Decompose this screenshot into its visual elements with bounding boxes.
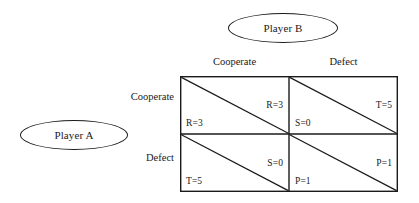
row-header-defect: Defect (54, 153, 174, 164)
column-header-defect: Defect (289, 57, 398, 68)
cell-dd-row-payoff: P=1 (295, 177, 311, 187)
payoff-matrix-figure: Player B Player A Cooperate Defect Coope… (0, 0, 419, 203)
player-b-label: Player B (264, 23, 303, 34)
cell-dc-column-payoff: S=0 (267, 159, 283, 169)
player-a-node: Player A (20, 120, 128, 150)
cell-cd-column-payoff: T=5 (376, 101, 392, 111)
payoff-matrix-grid: R=3 R=3 T=5 S=0 S=0 T=5 P=1 P=1 (180, 76, 398, 192)
cell-cooperate-defect: T=5 S=0 (289, 76, 398, 134)
cell-defect-cooperate: S=0 T=5 (180, 134, 289, 192)
column-header-cooperate: Cooperate (180, 57, 289, 68)
cell-cc-column-payoff: R=3 (266, 101, 283, 111)
row-header-cooperate: Cooperate (54, 92, 174, 103)
player-a-label: Player A (55, 130, 94, 141)
cell-dc-row-payoff: T=5 (186, 177, 202, 187)
cell-cd-row-payoff: S=0 (295, 119, 311, 129)
cell-cc-row-payoff: R=3 (186, 119, 203, 129)
cell-defect-defect: P=1 P=1 (289, 134, 398, 192)
cell-dd-column-payoff: P=1 (376, 159, 392, 169)
player-b-node: Player B (228, 13, 338, 43)
cell-cooperate-cooperate: R=3 R=3 (180, 76, 289, 134)
